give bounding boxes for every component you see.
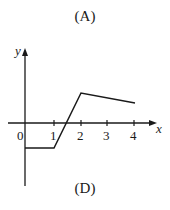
origin-label: 0: [17, 128, 24, 143]
x-tick-label-3: 3: [103, 128, 110, 143]
x-axis-name: x: [155, 121, 162, 136]
x-tick-label-1: 1: [50, 128, 57, 143]
x-tick-label-2: 2: [77, 128, 84, 143]
figure-label-bottom: (D): [0, 180, 170, 197]
y-axis-arrow-icon: [22, 48, 28, 56]
x-tick-label-4: 4: [130, 128, 137, 143]
y-axis-name: y: [13, 43, 21, 58]
line-chart: 0 1 2 3 4 x y: [0, 0, 170, 210]
